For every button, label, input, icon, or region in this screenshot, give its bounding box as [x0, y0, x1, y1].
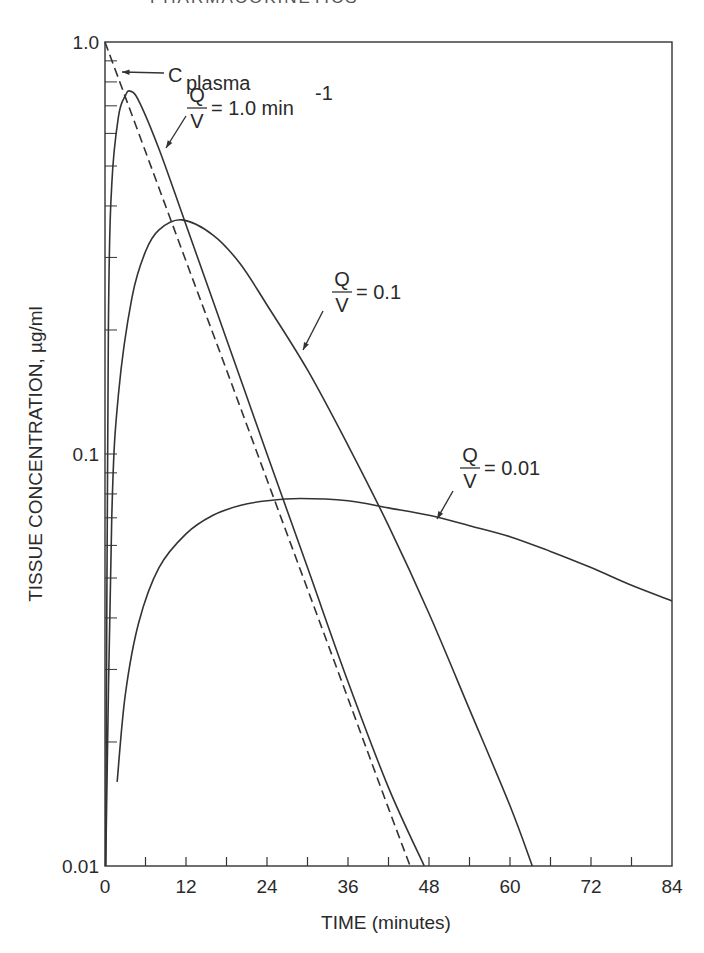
x-axis: 012243648607284: [100, 857, 683, 897]
x-tick-label: 60: [499, 876, 520, 897]
chart: 012243648607284 1.00.10.01 CplasmaQV= 1.…: [0, 0, 704, 953]
x-tick-label: 12: [175, 876, 196, 897]
fraction-numerator: Q: [462, 444, 478, 466]
annotation-value: = 0.01: [484, 457, 540, 479]
annotation-value: = 0.1: [356, 281, 401, 303]
arrowhead-icon: [166, 140, 172, 148]
annotation-superscript: -1: [315, 82, 333, 104]
series-line: [105, 42, 410, 866]
x-tick-label: 36: [337, 876, 358, 897]
plot-frame: [105, 42, 672, 866]
annotation-value: = 1.0 min: [211, 97, 294, 119]
series-line: [106, 220, 533, 866]
x-tick-label: 72: [580, 876, 601, 897]
x-tick-label: 84: [661, 876, 683, 897]
fraction-denominator: V: [190, 110, 204, 132]
plot-border: [105, 42, 672, 866]
x-tick-label: 48: [418, 876, 439, 897]
y-axis-title: TISSUE CONCENTRATION, µg/ml: [25, 306, 46, 602]
y-tick-label: 0.1: [73, 444, 99, 465]
x-tick-label: 24: [256, 876, 278, 897]
c-plasma-label: C: [168, 64, 182, 86]
arrowhead-icon: [303, 342, 309, 350]
fraction-denominator: V: [335, 294, 349, 316]
y-tick-label: 0.01: [62, 856, 99, 877]
series-line: [106, 91, 425, 866]
y-tick-label: 1.0: [73, 32, 99, 53]
fraction-numerator: Q: [189, 84, 205, 106]
arrowhead-icon: [122, 69, 130, 74]
x-tick-label: 0: [100, 876, 111, 897]
plot-lines: [105, 42, 672, 866]
y-axis: 1.00.10.01: [62, 32, 117, 877]
annotations: CplasmaQV= 1.0 min-1QV= 0.1QV= 0.01: [122, 64, 540, 519]
fraction-numerator: Q: [334, 268, 350, 290]
x-axis-title: TIME (minutes): [321, 912, 451, 933]
fraction-denominator: V: [463, 470, 477, 492]
series-line: [117, 498, 672, 781]
